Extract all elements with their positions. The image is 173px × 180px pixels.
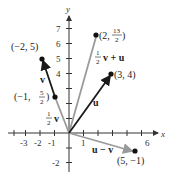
- svg-text:2: 2: [115, 36, 119, 44]
- x-tick-1: 1: [81, 138, 86, 148]
- svg-text:13: 13: [113, 27, 121, 35]
- x-axis: [8, 130, 158, 136]
- label-half-v-plus-u: 1 2 v + u: [95, 49, 125, 66]
- x-tick-neg3: -3: [20, 138, 28, 148]
- point-2-13over2: [93, 32, 98, 37]
- svg-text:): ): [46, 91, 49, 103]
- label-point-3-4: (3, 4): [114, 69, 136, 81]
- point-neg2-5: [39, 56, 44, 61]
- svg-text:5: 5: [40, 89, 44, 97]
- svg-text:2: 2: [40, 98, 44, 106]
- vector-diagram: y x 7 6 5 4 -2 -3 -2 -1 1 6 (−2, 5) (2, …: [0, 0, 173, 180]
- y-tick-5: 5: [56, 54, 61, 64]
- svg-text:1: 1: [96, 49, 100, 57]
- svg-text:2: 2: [96, 58, 100, 66]
- y-tick-6: 6: [56, 39, 61, 49]
- y-tick-7: 7: [56, 24, 61, 34]
- point-3-4: [108, 71, 113, 76]
- u-vector: [69, 76, 110, 133]
- y-tick-neg2: -2: [52, 158, 60, 168]
- half-v-plus-u-vector: [69, 37, 96, 133]
- svg-text:(−1,: (−1,: [14, 91, 30, 103]
- svg-text:v + u: v + u: [103, 52, 125, 63]
- label-point-5-neg1: (5, −1): [117, 155, 144, 167]
- point-5-neg1: [132, 148, 137, 153]
- svg-text:(2,: (2,: [99, 30, 110, 42]
- y-axis: [66, 16, 72, 172]
- point-neg1-5over2: [52, 94, 57, 99]
- x-tick-neg1: -1: [48, 138, 56, 148]
- svg-text:): ): [122, 30, 125, 42]
- svg-text:v: v: [54, 113, 59, 124]
- svg-text:2: 2: [47, 119, 51, 127]
- y-tick-4: 4: [56, 69, 61, 79]
- x-tick-6: 6: [145, 138, 150, 148]
- label-point-2-13over2: (2, 13 2 ): [99, 27, 125, 44]
- label-u: u: [93, 97, 99, 108]
- label-half-v: 1 2 v: [46, 110, 59, 127]
- label-u-minus-v: u − v: [92, 144, 113, 155]
- x-axis-label: x: [160, 129, 165, 139]
- svg-text:1: 1: [47, 110, 51, 118]
- x-tick-neg2: -2: [34, 138, 42, 148]
- label-point-neg1-5over2: (−1, 5 2 ): [14, 89, 49, 106]
- y-axis-label: y: [65, 4, 70, 14]
- label-v: v: [40, 74, 45, 85]
- label-point-neg2-5: (−2, 5): [11, 41, 38, 53]
